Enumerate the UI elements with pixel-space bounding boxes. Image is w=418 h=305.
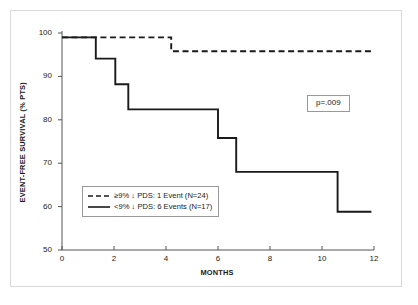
y-tick-label: 90 [26,71,52,80]
x-tick-label: 8 [257,254,283,263]
axis-lines [62,31,374,250]
p-value-annotation: p=.009 [307,95,350,112]
y-tick-label: 60 [26,202,52,211]
legend-label-low-pds: <9% ↓ PDS: 6 Events (N=17) [114,203,212,211]
y-tick-label: 80 [26,115,52,124]
figure: 5060708090100 024681012 EVENT-FREE SURVI… [0,0,418,305]
legend-item-low-pds: <9% ↓ PDS: 6 Events (N=17) [88,201,212,212]
solid-line-swatch-icon [88,202,110,212]
x-axis-title: MONTHS [157,268,277,277]
y-tick-label: 100 [26,28,52,37]
x-tick-label: 2 [101,254,127,263]
legend-item-high-pds: ≥9% ↓ PDS: 1 Event (N=24) [88,190,212,201]
x-tick-label: 10 [309,254,335,263]
y-tick-label: 70 [26,158,52,167]
x-tick-label: 4 [153,254,179,263]
y-axis-title: EVENT-FREE SURVIVAL (% PTS) [18,83,27,203]
y-tick-label: 50 [26,245,52,254]
legend: ≥9% ↓ PDS: 1 Event (N=24) <9% ↓ PDS: 6 E… [82,186,219,217]
x-tick-marks [62,246,374,250]
dashed-line-swatch-icon [88,191,110,201]
y-tick-marks [58,33,62,250]
x-tick-label: 12 [361,254,387,263]
series-line-high-pds [62,37,374,51]
x-tick-label: 6 [205,254,231,263]
legend-label-high-pds: ≥9% ↓ PDS: 1 Event (N=24) [114,192,208,200]
x-tick-label: 0 [49,254,75,263]
